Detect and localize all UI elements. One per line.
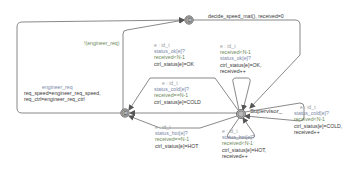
hot-left-assign: ctrl_status[e]=HOT	[155, 143, 198, 149]
engineer-req-label-block: engineer_req req_speed=engineer_req_spee…	[24, 84, 101, 103]
decide-edge-label: decide_speed_mat(), received=0	[208, 13, 284, 19]
location-supervisor[interactable]	[237, 110, 246, 119]
automaton-canvas: C C Supervisor_ decide_speed_mat(), rece…	[0, 0, 362, 170]
hot-left-label-block: e : id_t status_hot[e]? received==N-1 ct…	[155, 124, 198, 149]
location-committed-left[interactable]: C	[121, 109, 129, 117]
hot-loop-assign-received: received++	[222, 153, 266, 159]
edge-ok-loop[interactable]	[233, 78, 250, 110]
supervisor-location-name: Supervisor_	[250, 108, 282, 114]
hot-loop-label-block: e : id_t status_hot[e]? received<N-1 ctr…	[222, 128, 266, 159]
cold-loop-assign-status: ctrl_status[e]=COLD,	[294, 123, 342, 129]
ok-left-assign: ctrl_status[e]=OK	[154, 61, 194, 67]
hot-loop-assign-status: ctrl_status[e]=HOT,	[222, 147, 266, 153]
ok-left-label-block: e : id_t status_ok[e]? received<N-1 ctrl…	[154, 42, 194, 67]
ok-loop-assign-status: ctrl_status[e]=OK,	[220, 62, 261, 68]
ok-loop-assign-received: received++	[220, 68, 261, 74]
location-committed-top[interactable]: C	[185, 16, 193, 24]
ok-loop-label-block: e : id_t received<N-1 status_ok[e]? ctrl…	[220, 43, 261, 74]
cold-loop-assign-received: received++	[294, 129, 342, 135]
not-engineer-req-guard: !(engineer_req)	[84, 40, 119, 46]
cold-left-assign: ctrl_status[e]=COLD	[154, 99, 201, 105]
cold-loop-label-block: e : id_t status_cold[e]? received<N-1 ct…	[294, 104, 342, 135]
cold-left-label-block: e : id_t status_cold[e]? received==N-1 c…	[154, 80, 201, 105]
engineer-req-assign-ctrl: req_ctrl=engineer_req_ctrl	[24, 96, 101, 102]
